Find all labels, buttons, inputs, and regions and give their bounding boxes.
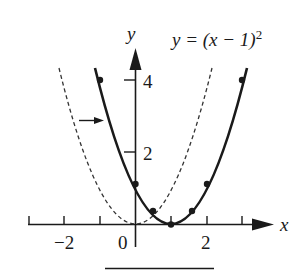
x-axis-arrow-icon: [252, 219, 274, 231]
x-tick-label-2: 2: [201, 233, 211, 252]
x-axis-label: x: [280, 215, 288, 234]
equation-text: y = (x − 1): [172, 29, 256, 50]
x-tick-label-0: 0: [118, 233, 128, 252]
y-ticks: [124, 80, 136, 152]
y-axis-arrow-icon: [130, 48, 142, 70]
equation-label: y = (x − 1)2: [172, 28, 262, 49]
y-axis-label: y: [127, 24, 135, 43]
equation-exponent: 2: [256, 27, 263, 42]
y-tick-label-2: 2: [143, 144, 153, 163]
solid-parabola-shifted: [95, 68, 247, 224]
y-tick-label-4: 4: [143, 72, 153, 91]
x-tick-label-neg2: −2: [54, 233, 74, 252]
shift-arrow-head-icon: [94, 117, 104, 124]
